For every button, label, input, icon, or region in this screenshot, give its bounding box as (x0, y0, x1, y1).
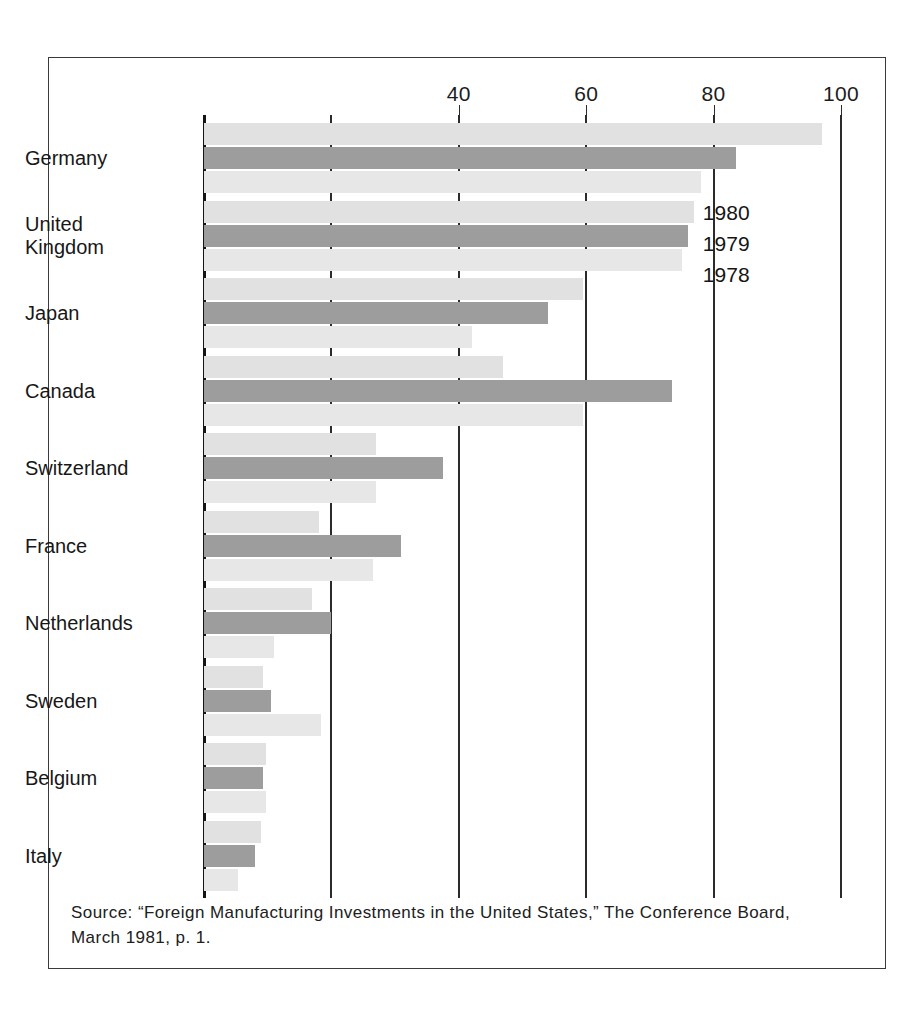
bar-1979 (204, 845, 255, 867)
legend-item-1979: 1979 (703, 228, 750, 259)
category-label: Sweden (25, 689, 204, 712)
bar-1979 (204, 380, 672, 402)
bar-1980 (204, 743, 266, 765)
plot-area: GermanyUnited KingdomJapanCanadaSwitzerl… (49, 115, 885, 898)
axis-tick-label: 60 (574, 82, 598, 106)
bar-group: United Kingdom (204, 201, 885, 271)
bar-1980 (204, 123, 822, 145)
category-label: United Kingdom (25, 213, 204, 259)
category-label: France (25, 534, 204, 557)
bar-1980 (204, 666, 263, 688)
top-axis: 406080100 (49, 58, 885, 116)
bar-group: Sweden (204, 666, 885, 736)
legend-item-1978: 1978 (703, 259, 750, 290)
bar-group: Germany (204, 123, 885, 193)
bar-group: Belgium (204, 743, 885, 813)
bar-1978 (204, 171, 701, 193)
bar-1979 (204, 457, 443, 479)
category-label: Italy (25, 844, 204, 867)
axis-tick-label: 40 (447, 82, 471, 106)
bar-1980 (204, 201, 694, 223)
bar-1978 (204, 404, 583, 426)
bar-1979 (204, 302, 548, 324)
bar-1979 (204, 767, 263, 789)
axis-tick-mark (459, 105, 460, 115)
bar-1979 (204, 612, 331, 634)
bar-1978 (204, 636, 274, 658)
category-label: Netherlands (25, 612, 204, 635)
category-label: Japan (25, 302, 204, 325)
axis-tick-label: 100 (823, 82, 859, 106)
bar-1978 (204, 869, 238, 891)
bar-group: Italy (204, 821, 885, 891)
source-note: Source: “Foreign Manufacturing Investmen… (71, 900, 867, 950)
category-label: Belgium (25, 767, 204, 790)
bar-group: Japan (204, 278, 885, 348)
axis-tick-mark (586, 105, 587, 115)
bar-1979 (204, 690, 271, 712)
bar-1979 (204, 147, 736, 169)
source-note-line-2: March 1981, p. 1. (71, 925, 867, 950)
bar-1980 (204, 356, 503, 378)
axis-tick-mark (841, 105, 842, 115)
bar-group: France (204, 511, 885, 581)
chart-legend: 1980 1979 1978 (703, 197, 750, 290)
bar-1980 (204, 278, 583, 300)
category-label: Germany (25, 147, 204, 170)
bar-1978 (204, 791, 266, 813)
bar-1980 (204, 821, 261, 843)
bar-group: Switzerland (204, 433, 885, 503)
bar-group: Canada (204, 356, 885, 426)
chart-figure: 406080100 GermanyUnited KingdomJapanCana… (48, 57, 886, 969)
bar-1979 (204, 225, 688, 247)
bar-1978 (204, 481, 376, 503)
bar-1980 (204, 433, 376, 455)
bar-1978 (204, 559, 373, 581)
bar-group: Netherlands (204, 588, 885, 658)
source-note-line-1: Source: “Foreign Manufacturing Investmen… (71, 900, 867, 925)
bar-1980 (204, 588, 312, 610)
bar-1978 (204, 249, 682, 271)
category-label: Switzerland (25, 457, 204, 480)
bar-1978 (204, 326, 472, 348)
category-label: Canada (25, 379, 204, 402)
axis-tick-mark (714, 105, 715, 115)
bar-1979 (204, 535, 401, 557)
bar-1978 (204, 714, 321, 736)
bar-1980 (204, 511, 319, 533)
axis-tick-label: 80 (702, 82, 726, 106)
legend-item-1980: 1980 (703, 197, 750, 228)
